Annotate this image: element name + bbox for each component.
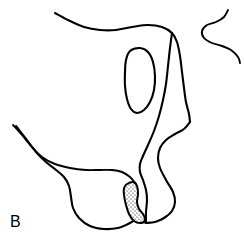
line-drawing-canvas: [0, 0, 245, 250]
figure-panel: B: [0, 0, 245, 250]
figure-background: [0, 0, 245, 250]
panel-label: B: [10, 214, 21, 230]
